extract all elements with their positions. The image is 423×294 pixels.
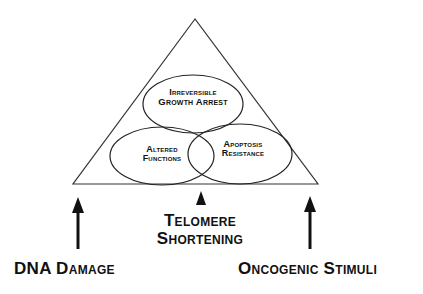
label-line: Telomere [140, 212, 260, 230]
label-telomere-shortening: Telomere Shortening [140, 212, 260, 248]
label-dna-damage: DNA Damage [14, 260, 134, 278]
label-irreversible-growth-arrest: Irreversible Growth Arrest [143, 88, 243, 107]
label-line: Growth Arrest [143, 97, 243, 107]
arrow-up-icon-telomere-shortening [196, 191, 206, 205]
label-line: Resistance [203, 149, 283, 158]
arrow-up-icon-oncogenic-stimuli [304, 196, 316, 249]
label-line: Functions [122, 154, 202, 163]
label-line: Shortening [140, 230, 260, 248]
label-oncogenic-stimuli: Oncogenic Stimuli [238, 260, 418, 278]
arrow-up-icon-dna-damage [72, 197, 84, 249]
label-apoptosis-resistance: Apoptosis Resistance [203, 140, 283, 159]
label-altered-functions: Altered Functions [122, 145, 202, 164]
